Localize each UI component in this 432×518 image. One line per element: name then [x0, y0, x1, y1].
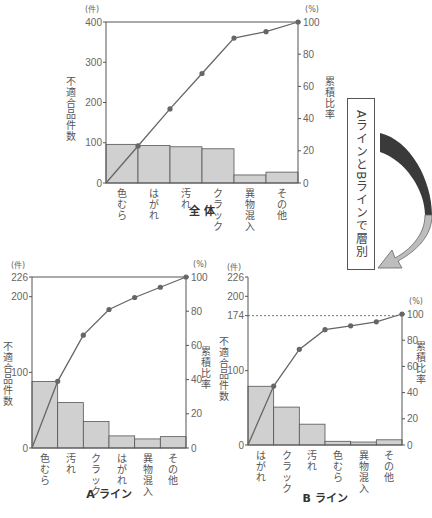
y2-tick-label: 80	[191, 306, 203, 317]
svg-text:他: 他	[168, 474, 178, 486]
category-label: はがれ	[117, 453, 127, 486]
y2-tick-label: 0	[303, 178, 309, 189]
svg-text:む: む	[117, 199, 127, 210]
svg-text:ク: ク	[91, 453, 101, 464]
cumulative-point	[297, 347, 302, 352]
svg-text:入: 入	[245, 221, 255, 232]
bar	[83, 422, 109, 448]
y2-tick-label: 100	[303, 17, 320, 28]
svg-text:そ: そ	[168, 453, 178, 464]
stratify-label-box: AラインとBラインで層別	[347, 98, 375, 270]
pareto-chart-2: 0100174200226(件)020406080100(%)不適合品件数累積比…	[219, 262, 426, 505]
cumulative-point	[374, 319, 379, 324]
y-axis-label: 不適合品件数	[66, 76, 76, 142]
svg-text:色: 色	[117, 187, 127, 199]
svg-text:ら: ら	[40, 475, 50, 486]
svg-text:数: 数	[66, 130, 76, 142]
cumulative-point	[295, 19, 300, 24]
y-tick-label: 226	[11, 272, 28, 283]
y-unit: (件)	[11, 260, 25, 270]
svg-text:は: は	[256, 450, 266, 461]
cumulative-point	[271, 383, 276, 388]
svg-text:入: 入	[359, 483, 369, 494]
cumulative-point	[81, 333, 86, 338]
svg-text:異: 異	[143, 453, 153, 464]
cumulative-point	[158, 285, 163, 290]
svg-text:不: 不	[219, 336, 229, 347]
category-label: 汚れ	[66, 452, 76, 475]
svg-text:他: 他	[277, 209, 287, 221]
category-label: はがれ	[149, 188, 159, 221]
category-label: 色むら	[333, 449, 343, 483]
svg-text:率: 率	[416, 373, 426, 385]
svg-text:は: は	[117, 453, 127, 464]
y2-tick-label: 100	[407, 309, 424, 320]
svg-text:れ: れ	[149, 210, 159, 221]
bar	[234, 175, 266, 183]
svg-text:品: 品	[3, 374, 13, 385]
svg-text:積: 積	[325, 86, 335, 98]
cumulative-point	[263, 29, 268, 34]
y2-unit: (%)	[409, 297, 423, 306]
pareto-chart-0: 0100200300400(件)020406080100(%)不適合品件数累積比…	[66, 4, 335, 232]
y-tick-label: 100	[11, 367, 28, 378]
y2-tick-label: 60	[303, 81, 315, 92]
y2-unit: (%)	[193, 260, 207, 269]
cumulative-point	[399, 311, 404, 316]
svg-text:積: 積	[416, 351, 426, 363]
stratify-label: AラインとBラインで層別	[353, 110, 370, 258]
y2-axis-label: 累積比率	[416, 341, 426, 385]
category-label: その他	[277, 188, 287, 221]
svg-text:累: 累	[416, 341, 426, 352]
svg-text:不: 不	[66, 76, 76, 87]
svg-text:混: 混	[143, 475, 153, 486]
bar	[376, 440, 402, 445]
y-tick-label: 0	[22, 443, 28, 454]
svg-text:ら: ら	[333, 472, 343, 483]
svg-text:ラ: ラ	[91, 464, 101, 475]
y2-tick-label: 0	[407, 440, 413, 451]
svg-text:む: む	[40, 464, 50, 475]
cumulative-point	[231, 36, 236, 41]
y-tick-label: 200	[227, 291, 244, 302]
category-label: 色むら	[117, 187, 127, 221]
svg-text:ッ: ッ	[282, 472, 292, 483]
svg-text:件: 件	[3, 385, 13, 396]
svg-text:が: が	[256, 460, 266, 472]
y2-tick-label: 20	[407, 413, 419, 424]
y-unit: (件)	[85, 4, 99, 14]
y-tick-label: 174	[227, 310, 244, 321]
svg-text:む: む	[333, 461, 343, 472]
bar	[266, 172, 298, 183]
cumulative-point	[106, 307, 111, 312]
svg-text:の: の	[384, 461, 394, 472]
svg-text:率: 率	[325, 108, 335, 120]
cumulative-point	[348, 323, 353, 328]
y-tick-label: 300	[85, 57, 102, 68]
cumulative-point	[183, 274, 188, 279]
cumulative-point	[322, 327, 327, 332]
svg-text:ク: ク	[213, 188, 223, 199]
svg-text:れ: れ	[256, 472, 266, 483]
cumulative-point	[199, 71, 204, 76]
y-tick-label: 0	[96, 178, 102, 189]
svg-text:比: 比	[325, 98, 335, 109]
category-label: 異物混入	[143, 453, 153, 497]
bar	[274, 407, 300, 445]
svg-text:他: 他	[384, 471, 394, 483]
y-tick-label: 200	[85, 97, 102, 108]
bar	[160, 437, 186, 448]
svg-text:れ: れ	[307, 461, 317, 472]
pareto-chart-1: 0100200226(件)020406080100(%)不適合品件数累積比率色む…	[3, 260, 211, 501]
bar	[138, 146, 170, 183]
svg-text:入: 入	[143, 486, 153, 497]
cumulative-point	[167, 106, 172, 111]
svg-text:品: 品	[66, 109, 76, 120]
category-label: 色むら	[40, 452, 50, 486]
category-label: はがれ	[256, 450, 266, 483]
y2-axis-label: 累積比率	[325, 76, 335, 120]
svg-text:比: 比	[416, 363, 426, 374]
svg-text:そ: そ	[384, 450, 394, 461]
svg-text:ら: ら	[117, 210, 127, 221]
svg-text:は: は	[149, 188, 159, 199]
